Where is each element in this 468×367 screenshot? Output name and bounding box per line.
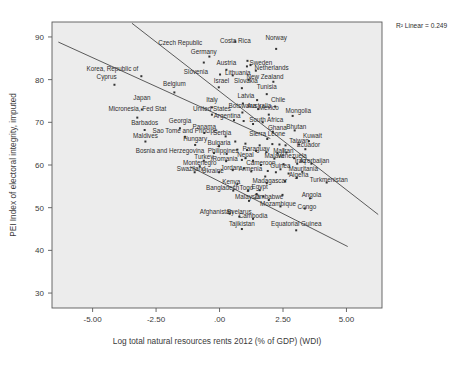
y-axis-tick-labels: 30405060708090 bbox=[35, 33, 44, 298]
data-point-label: Bangladesh bbox=[206, 184, 240, 192]
data-point bbox=[309, 197, 311, 199]
data-point-label: Jordan bbox=[221, 164, 241, 171]
data-point bbox=[208, 56, 210, 58]
y-axis-title: PEI Index of electoral integrity, impute… bbox=[8, 93, 18, 237]
data-point-label: Bhutan bbox=[286, 123, 306, 130]
data-point-label: Netherlands bbox=[255, 64, 289, 71]
data-point bbox=[275, 171, 277, 173]
data-point-label: Turkmenistan bbox=[310, 176, 348, 183]
data-point bbox=[173, 91, 175, 93]
data-point-label: Costa Rica bbox=[220, 37, 251, 44]
data-point-label: Cambodia bbox=[239, 212, 268, 219]
data-point bbox=[266, 93, 268, 95]
data-point bbox=[252, 123, 254, 125]
data-point-label: Serbia bbox=[213, 129, 232, 136]
plot-canvas: -5.00-2.50.002.505.00 30405060708090 Cze… bbox=[0, 0, 468, 367]
data-point-label: Zimbabwe bbox=[254, 193, 284, 200]
data-point-label: Israel bbox=[214, 77, 229, 84]
y-tick-label: 60 bbox=[35, 161, 44, 170]
data-point bbox=[241, 111, 243, 113]
data-point bbox=[241, 228, 243, 230]
data-point-label: Japan bbox=[133, 94, 151, 102]
data-point-label: Equatorial Guinea bbox=[271, 220, 322, 228]
data-point bbox=[140, 75, 142, 77]
data-point-label: Egypt bbox=[252, 183, 268, 191]
data-point-label: Taiwan bbox=[289, 137, 309, 144]
data-point-label: Germany bbox=[191, 48, 218, 56]
data-point-label: Botswana bbox=[229, 102, 257, 109]
x-axis-tick-labels: -5.00-2.50.002.505.00 bbox=[83, 315, 354, 324]
data-point bbox=[256, 99, 258, 101]
data-point bbox=[292, 115, 294, 117]
data-point-label: Slovakia bbox=[234, 77, 258, 84]
data-point bbox=[246, 65, 248, 67]
data-point-label: Korea, Republic of bbox=[87, 65, 139, 73]
x-tick-label: .00 bbox=[214, 315, 226, 324]
data-point-label: Argentina bbox=[214, 112, 241, 120]
y-tick-label: 90 bbox=[35, 33, 44, 42]
data-point bbox=[271, 143, 273, 145]
data-point bbox=[144, 141, 146, 143]
data-point bbox=[219, 74, 221, 76]
data-point bbox=[278, 144, 280, 146]
data-point bbox=[248, 200, 250, 202]
data-point-label: South Africa bbox=[249, 116, 283, 123]
data-point-label: Mexico bbox=[259, 104, 279, 111]
data-point-label: Belgium bbox=[163, 80, 186, 88]
data-point bbox=[294, 129, 296, 131]
y-tick-label: 30 bbox=[35, 289, 44, 298]
x-axis-title: Log total natural resources rents 2012 (… bbox=[113, 336, 322, 346]
data-point bbox=[241, 87, 243, 89]
data-point bbox=[234, 141, 236, 143]
data-point bbox=[243, 120, 245, 122]
y-tick-label: 80 bbox=[35, 76, 44, 85]
data-point-label: Slovenia bbox=[184, 68, 209, 75]
data-point-label: Armenia bbox=[239, 165, 263, 172]
data-point-label: Algeria bbox=[289, 171, 309, 179]
data-point bbox=[266, 138, 268, 140]
scatter-plot-figure: -5.00-2.50.002.505.00 30405060708090 Cze… bbox=[0, 0, 468, 367]
data-point-label: Norway bbox=[265, 34, 287, 42]
data-point bbox=[218, 86, 220, 88]
y-tick-label: 50 bbox=[35, 204, 44, 213]
x-tick-label: -2.50 bbox=[147, 315, 166, 324]
data-point-label: Cyprus bbox=[97, 73, 117, 81]
data-point bbox=[203, 62, 205, 64]
data-point-label: Latvia bbox=[238, 92, 255, 99]
data-point-label: Italy bbox=[206, 96, 218, 104]
data-point-label: Austria bbox=[217, 59, 237, 66]
data-point-label: Angola bbox=[302, 191, 322, 199]
data-point-label: Tajikistan bbox=[229, 220, 255, 228]
x-tick-label: 5.00 bbox=[339, 315, 355, 324]
x-tick-label: 2.50 bbox=[275, 315, 291, 324]
data-point bbox=[295, 229, 297, 231]
r-squared-annotation: R² Linear = 0.249 bbox=[396, 22, 447, 29]
data-point bbox=[246, 60, 248, 62]
x-tick-label: -5.00 bbox=[83, 315, 102, 324]
data-point-label: United States bbox=[193, 105, 231, 112]
data-point bbox=[241, 159, 243, 161]
data-point bbox=[267, 170, 269, 172]
data-point-label: Georgia bbox=[169, 117, 192, 125]
data-point-label: Micronesia, Fed Stat bbox=[108, 105, 166, 112]
data-point-label: Mozambique bbox=[260, 200, 297, 208]
data-point bbox=[304, 148, 306, 150]
data-point bbox=[211, 114, 213, 116]
data-point-label: Czech Republic bbox=[158, 39, 202, 47]
data-point-label: Chile bbox=[271, 96, 286, 103]
data-point-label: Mongolia bbox=[285, 107, 311, 115]
data-point bbox=[113, 84, 115, 86]
data-point bbox=[275, 48, 277, 50]
data-point-label: Azerbaijan bbox=[300, 157, 330, 165]
data-point-label: Congo bbox=[298, 203, 317, 211]
y-tick-label: 70 bbox=[35, 118, 44, 127]
y-tick-label: 40 bbox=[35, 246, 44, 255]
data-point-label: Sierra Leone bbox=[249, 130, 286, 137]
data-point-label: Barbados bbox=[131, 119, 158, 126]
data-point-label: Hungary bbox=[183, 135, 208, 143]
data-point-label: Tunisia bbox=[257, 83, 278, 90]
